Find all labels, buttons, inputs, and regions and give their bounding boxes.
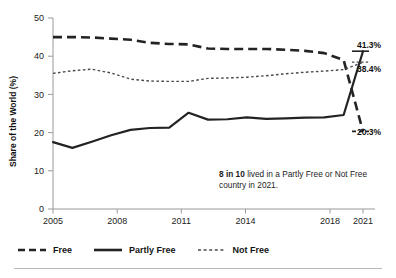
- y-tick-label-40: 40: [34, 51, 44, 61]
- y-tick-label-30: 30: [34, 90, 44, 100]
- legend-label-partly-free: Partly Free: [129, 245, 176, 255]
- legend-swatch-dotted-icon: [198, 245, 226, 255]
- y-axis-title: Share of the World (%): [8, 76, 18, 167]
- chart-legend: Free Partly Free Not Free: [0, 240, 396, 260]
- chart-container: 0 10 20 30 40 50 Share of the World (%) …: [0, 0, 396, 278]
- end-label-partly-free: 41.3%: [357, 40, 382, 50]
- series-line-partly-free: [53, 51, 363, 148]
- x-tick-label-2021: 2021: [353, 216, 373, 226]
- series-lines: [53, 37, 363, 148]
- legend-swatch-solid-icon: [94, 245, 122, 255]
- y-tick-label-10: 10: [34, 166, 44, 176]
- y-axis-group: 0 10 20 30 40 50 Share of the World (%): [8, 13, 53, 214]
- x-axis-ticks: [53, 209, 363, 214]
- x-tick-label-2008: 2008: [107, 216, 127, 226]
- y-axis-ticks: [48, 18, 53, 209]
- legend-swatch-dashed-icon: [18, 245, 46, 255]
- end-label-not-free: 38.4%: [357, 64, 382, 74]
- bottom-divider: [14, 268, 382, 269]
- line-chart-svg: 0 10 20 30 40 50 Share of the World (%) …: [0, 0, 396, 240]
- x-tick-label-2011: 2011: [172, 216, 191, 226]
- legend-item-partly-free[interactable]: Partly Free: [94, 245, 176, 255]
- y-tick-label-20: 20: [34, 128, 44, 138]
- series-line-not-free: [53, 62, 363, 81]
- end-label-free: 20.3%: [357, 127, 382, 137]
- legend-label-not-free: Not Free: [233, 245, 270, 255]
- x-tick-label-2018: 2018: [320, 216, 340, 226]
- y-tick-label-50: 50: [34, 13, 44, 23]
- legend-item-not-free[interactable]: Not Free: [198, 245, 270, 255]
- x-axis-group: 2005 2008 2011 2014 2018 2021: [43, 209, 375, 226]
- x-tick-label-2014: 2014: [235, 216, 255, 226]
- legend-item-free[interactable]: Free: [18, 245, 72, 255]
- x-tick-label-2005: 2005: [43, 216, 63, 226]
- legend-label-free: Free: [53, 245, 72, 255]
- annotation-bold-prefix: 8 in 10: [219, 169, 245, 179]
- chart-annotation: 8 in 10 lived in a Partly Free or Not Fr…: [219, 169, 369, 191]
- y-tick-label-0: 0: [39, 204, 44, 214]
